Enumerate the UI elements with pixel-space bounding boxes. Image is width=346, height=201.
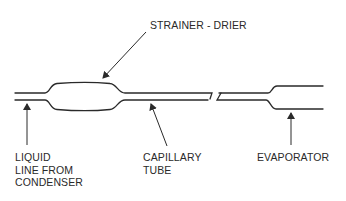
strainer-drier-label: STRAINER - DRIER [150, 19, 247, 32]
capillary-right-bottom [217, 93, 323, 109]
callout-arrows [27, 32, 291, 146]
capillary-tube-label: CAPILLARY TUBE [143, 151, 202, 176]
liquid-line-bottom [15, 100, 208, 111]
strainer-drier-arrow [103, 32, 146, 78]
liquid-line-top [15, 82, 212, 99]
tubing-left [15, 82, 212, 110]
capillary-right-top [219, 86, 323, 93]
liquid-line-label: LIQUID LINE FROM CONDENSER [15, 151, 83, 189]
capillary-tube-arrow [151, 104, 167, 146]
tubing-right [217, 86, 323, 109]
evaporator-label: EVAPORATOR [257, 151, 329, 164]
